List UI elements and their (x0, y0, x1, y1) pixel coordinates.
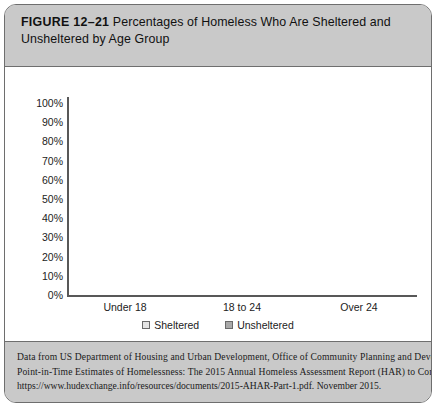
y-axis-tick-label: 100% (36, 97, 63, 109)
x-axis-category-label: Under 18 (65, 301, 185, 313)
y-axis-tick-label: 30% (42, 231, 63, 243)
figure-title-band: FIGURE 12–21 Percentages of Homeless Who… (5, 5, 431, 67)
figure-title: FIGURE 12–21 Percentages of Homeless Who… (21, 14, 415, 48)
source-line-3: https://www.hudexchange.info/resources/d… (17, 379, 419, 394)
figure-card: FIGURE 12–21 Percentages of Homeless Who… (4, 4, 432, 403)
figure-number: FIGURE 12–21 (21, 15, 109, 29)
y-axis-tick-label: 10% (42, 270, 63, 282)
y-axis-tick-label: 80% (42, 135, 63, 147)
y-axis-tick-label: 90% (42, 116, 63, 128)
figure-source-band: Data from US Department of Housing and U… (5, 341, 431, 402)
legend-label-sheltered: Sheltered (154, 319, 199, 331)
x-axis-category-label: 18 to 24 (182, 301, 302, 313)
legend-item-unsheltered: Unsheltered (225, 319, 294, 331)
chart-plot-area: 0%10%20%30%40%50%60%70%80%90%100% Under … (5, 67, 431, 343)
y-axis-tick-label: 40% (42, 212, 63, 224)
y-axis-tick-labels: 0%10%20%30%40%50%60%70%80%90%100% (19, 67, 63, 343)
bars-layer: Under 1818 to 24Over 24 (67, 67, 417, 343)
source-line-1: Data from US Department of Housing and U… (17, 350, 419, 365)
legend-item-sheltered: Sheltered (142, 319, 199, 331)
y-axis-tick-label: 0% (48, 289, 63, 301)
source-line-2: Point-in-Time Estimates of Homelessness:… (17, 365, 419, 380)
y-axis-tick-label: 20% (42, 251, 63, 263)
x-axis-category-label: Over 24 (299, 301, 419, 313)
chart-legend: Sheltered Unsheltered (5, 319, 431, 331)
y-axis-tick-label: 60% (42, 174, 63, 186)
legend-swatch-unsheltered-icon (225, 321, 233, 329)
y-axis-tick-label: 70% (42, 155, 63, 167)
legend-swatch-sheltered-icon (142, 321, 150, 329)
legend-label-unsheltered: Unsheltered (237, 319, 294, 331)
y-axis-tick-label: 50% (42, 193, 63, 205)
